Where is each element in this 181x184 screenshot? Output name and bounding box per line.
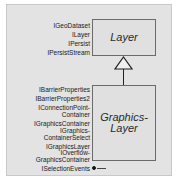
interface-label-iselectionevents: ISelectionEvents <box>14 165 92 172</box>
lollipop-circle-filled-icon <box>92 166 96 170</box>
class-name-layer: Layer <box>110 32 138 43</box>
class-name-graphics-layer: Graphics- Layer <box>100 112 148 134</box>
generalization-triangle-icon <box>114 56 133 70</box>
interface-label-ibarrierproperties: IBarrierProperties <box>14 86 92 93</box>
class-box-layer[interactable]: Layer <box>92 19 156 56</box>
interface-label-ipersist: IPersist <box>14 40 92 47</box>
interface-label-ilayer: ILayer <box>14 31 92 38</box>
interface-label-iconnectionpointcontainer: IConnectionPoint- Container <box>14 104 92 118</box>
interface-label-igeodataset: IGeoDataset <box>14 22 92 29</box>
lollipop-iselectionevents <box>92 164 106 172</box>
class-box-graphics-layer[interactable]: Graphics- Layer <box>92 85 156 161</box>
interface-label-ibarrierproperties2: IBarrierProperties2 <box>14 95 92 102</box>
interface-label-ioverflowgraphicscontainer: IOverflow- GraphicsContainer <box>14 149 92 163</box>
interface-row-iselectionevents[interactable]: ISelectionEvents <box>14 164 106 172</box>
interface-label-ipersiststream: IPersistStream <box>14 49 92 56</box>
lollipop-connector-line <box>97 168 106 169</box>
interface-label-igraphicscontainerselect: IGraphics- ContainerSelect <box>14 127 92 141</box>
diagram-canvas: IGeoDataset ILayer IPersist IPersistStre… <box>0 0 181 184</box>
generalization-stem <box>123 68 124 86</box>
